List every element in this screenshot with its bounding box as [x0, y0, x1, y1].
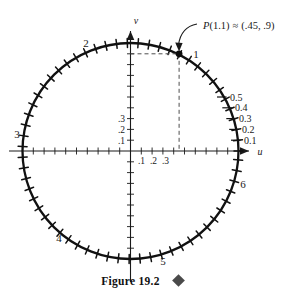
circle-arclength-tick — [232, 170, 241, 172]
u-tick-label-0.1: .1 — [138, 156, 145, 166]
radius-label-0.5: 0.5 — [230, 92, 243, 103]
radius-label-0.3: 0.3 — [239, 113, 252, 124]
v-axis-label: v — [134, 15, 139, 26]
radius-label-0.4: 0.4 — [235, 102, 248, 113]
point-p-annotation-relation: ≈ — [233, 20, 239, 31]
figure-19-2: v u .1 .2 .3 .1 .2 .3 0.1 0.2 0.3 0.4 0.… — [0, 0, 284, 295]
v-tick-label-0.1: .1 — [118, 136, 125, 146]
circle-arclength-tick — [148, 40, 150, 49]
projection-dashed-lines — [131, 54, 180, 151]
circle-arclength-tick — [234, 160, 243, 161]
figure-caption: Figure 19.2 — [0, 266, 284, 295]
circle-arclength-tick — [150, 253, 152, 262]
circle-arclength-tick — [107, 252, 109, 261]
circle-arclength-tick — [140, 254, 141, 263]
unit-circle-plot: v u .1 .2 .3 .1 .2 .3 0.1 0.2 0.3 0.4 0.… — [0, 0, 284, 295]
v-tick-label-0.2: .2 — [118, 125, 125, 135]
arclength-label-1: 1 — [193, 48, 199, 60]
arclength-label-3: 3 — [14, 128, 20, 140]
figure-caption-text: Figure 19.2 — [101, 275, 160, 287]
circle-arclength-tick — [105, 41, 107, 50]
radius-label-0.1: 0.1 — [244, 135, 257, 146]
diamond-icon — [172, 274, 185, 287]
arclength-label-6: 6 — [240, 178, 246, 190]
arclength-label-2: 2 — [83, 37, 89, 49]
point-p-annotation-value: (.45, .9) — [241, 20, 275, 32]
circle-arclength-tick — [116, 39, 117, 48]
u-tick-label-0.3: .3 — [162, 156, 169, 166]
point-p-annotation: P(1.1)≈(.45, .9) — [202, 20, 275, 32]
circle-arclength-tick — [138, 39, 139, 48]
u-tick-label-0.2: .2 — [150, 156, 157, 166]
circle-arclength-tick — [19, 135, 28, 136]
axis-group — [9, 31, 249, 282]
v-tick-label-0.3: .3 — [118, 114, 125, 124]
point-p-annotation-arg: (1.1) — [209, 20, 230, 32]
u-axis-label: u — [258, 146, 263, 157]
radius-label-0.2: 0.2 — [242, 124, 255, 135]
arclength-label-4: 4 — [56, 232, 62, 244]
circle-arclength-tick — [19, 167, 28, 168]
circle-arclength-tick — [18, 157, 27, 158]
circle-arclength-tick — [118, 254, 119, 263]
circle-arclength-tick — [21, 124, 30, 126]
